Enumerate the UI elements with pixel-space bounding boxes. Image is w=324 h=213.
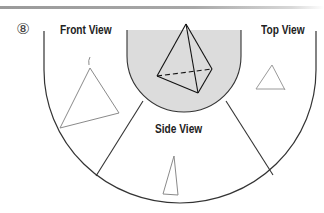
front-view-label: Front View	[60, 22, 112, 37]
side-view-sketch	[163, 156, 178, 195]
front-view-sketch	[60, 57, 119, 128]
top-view-label: Top View	[261, 22, 305, 37]
side-view-label: Side View	[155, 121, 202, 136]
divider-left	[96, 101, 143, 176]
center-shaded-region	[127, 30, 241, 112]
divider-right	[226, 101, 273, 175]
top-view-sketch	[256, 65, 285, 90]
